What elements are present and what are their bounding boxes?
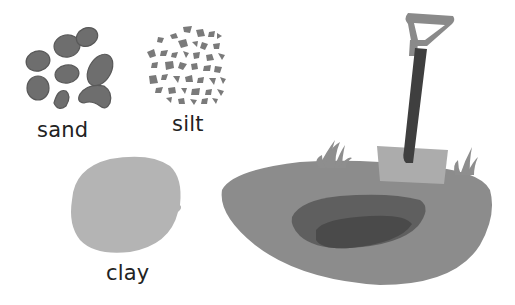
- sand-pebbles-icon: [24, 24, 118, 108]
- particle: [220, 77, 226, 84]
- particle: [178, 98, 185, 104]
- pebble: [82, 50, 118, 90]
- particle: [201, 98, 208, 104]
- clay-blob-icon: [71, 157, 181, 253]
- particle: [191, 63, 198, 70]
- particle: [203, 65, 211, 71]
- pebble: [79, 85, 111, 108]
- particle: [206, 54, 214, 61]
- particle: [208, 31, 215, 37]
- particle: [165, 61, 174, 70]
- pebble: [27, 76, 49, 100]
- particle: [191, 88, 200, 95]
- grass-icon: [454, 147, 478, 175]
- particle: [155, 87, 163, 93]
- particle: [160, 50, 168, 56]
- particle: [161, 74, 168, 80]
- particle: [168, 87, 176, 94]
- particle: [171, 52, 178, 58]
- particle: [157, 37, 164, 43]
- grass-icon: [316, 140, 352, 168]
- particle: [183, 26, 192, 33]
- particle: [212, 98, 218, 104]
- clay-label: clay: [106, 261, 149, 285]
- particle: [197, 77, 204, 83]
- pebble: [54, 91, 69, 109]
- pebble: [54, 63, 81, 85]
- pebble: [24, 48, 52, 74]
- shovel-grip: [406, 13, 455, 46]
- particle: [196, 29, 205, 37]
- shovel-icon: [377, 13, 454, 184]
- particle: [200, 42, 208, 50]
- particle: [149, 75, 158, 84]
- particle: [178, 62, 187, 70]
- particle: [185, 75, 193, 82]
- particle: [147, 49, 156, 58]
- particle: [170, 33, 178, 39]
- shovel-handle: [403, 48, 427, 163]
- particle: [190, 99, 197, 105]
- particle: [183, 51, 189, 58]
- particle: [181, 88, 187, 94]
- particle: [178, 39, 188, 48]
- silt-label: silt: [172, 112, 204, 136]
- silt-particles-icon: [147, 26, 226, 105]
- particle: [214, 66, 222, 73]
- particle: [218, 53, 225, 60]
- particle: [166, 97, 172, 103]
- particle: [217, 33, 222, 39]
- particle: [173, 76, 180, 83]
- particle: [192, 41, 198, 47]
- sand-label: sand: [37, 118, 88, 142]
- soil-illustration: [0, 0, 515, 305]
- particle: [213, 43, 220, 49]
- particle: [209, 78, 216, 85]
- particle: [217, 89, 224, 96]
- particle: [193, 52, 200, 59]
- particle: [205, 89, 212, 95]
- particle: [151, 62, 158, 68]
